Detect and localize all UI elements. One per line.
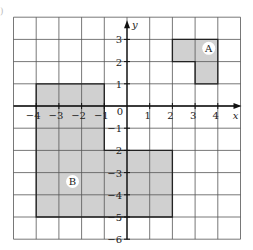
x-tick-label: −1 (94, 110, 109, 121)
origin-label: 0 (117, 106, 123, 117)
x-axis-label: x (233, 110, 239, 121)
x-tick-label: 1 (145, 110, 151, 121)
shape-a-label: A (204, 43, 213, 54)
y-axis-arrow-icon (124, 20, 130, 28)
y-tick-label: −4 (107, 190, 122, 201)
x-tick-label: 4 (213, 110, 219, 121)
y-tick-label: 1 (116, 79, 122, 90)
coordinate-grid-diagram: ) −4−3−2−11234321−1−2−3−4−5−60xy AB (0, 0, 253, 250)
x-tick-label: 2 (167, 110, 173, 121)
shape-b-label: B (69, 176, 76, 187)
x-tick-label: 3 (190, 110, 196, 121)
y-tick-label: −6 (107, 234, 122, 245)
cut-off-question-mark: ) (0, 6, 4, 16)
y-tick-label: −3 (107, 168, 122, 179)
y-tick-label: 2 (116, 57, 122, 68)
x-tick-label: −2 (71, 110, 86, 121)
y-tick-label: −5 (107, 212, 122, 223)
x-tick-label: −3 (49, 110, 64, 121)
y-tick-label: 3 (116, 34, 122, 45)
y-tick-label: −2 (107, 145, 122, 156)
x-tick-label: −4 (26, 110, 41, 121)
y-axis-label: y (131, 19, 138, 30)
y-tick-label: −1 (107, 123, 122, 134)
